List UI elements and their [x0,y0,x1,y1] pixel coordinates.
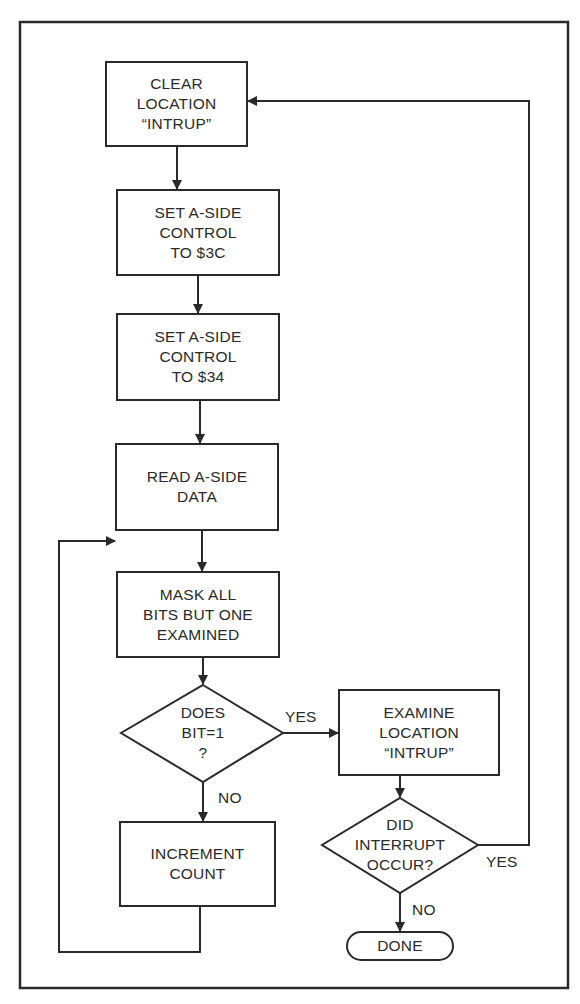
node-mask-bits: MASK ALL BITS BUT ONE EXAMINED [117,572,279,657]
edge-label-interrupt-no: NO [412,900,436,920]
node-label: DONE [377,936,423,956]
node-label: SET A-SIDE CONTROL TO $3C [155,203,242,263]
node-label: DID INTERRUPT OCCUR? [355,815,446,875]
node-did-interrupt: DID INTERRUPT OCCUR? [340,813,460,877]
node-label: EXAMINE LOCATION “INTRUP” [379,703,459,763]
node-read-data: READ A-SIDE DATA [116,444,278,530]
edge-label-interrupt-yes: YES [486,852,518,872]
node-label: INCREMENT COUNT [151,844,245,884]
node-set-34: SET A-SIDE CONTROL TO $34 [117,314,279,400]
node-label: SET A-SIDE CONTROL TO $34 [155,327,242,387]
node-done: DONE [347,932,453,960]
edge-label-bit-yes: YES [285,707,317,727]
node-label: READ A-SIDE DATA [147,467,247,507]
edge-label-bit-no: NO [218,788,242,808]
node-clear-intrup: CLEAR LOCATION “INTRUP” [106,62,247,146]
node-does-bit: DOES BIT=1 ? [143,700,263,766]
node-label: CLEAR LOCATION “INTRUP” [137,74,217,134]
node-set-3c: SET A-SIDE CONTROL TO $3C [117,190,279,275]
node-examine-intrup: EXAMINE LOCATION “INTRUP” [339,690,499,775]
node-label: DOES BIT=1 ? [181,703,226,763]
node-label: MASK ALL BITS BUT ONE EXAMINED [143,585,253,645]
node-increment-count: INCREMENT COUNT [120,822,275,906]
outer-frame [20,22,568,988]
